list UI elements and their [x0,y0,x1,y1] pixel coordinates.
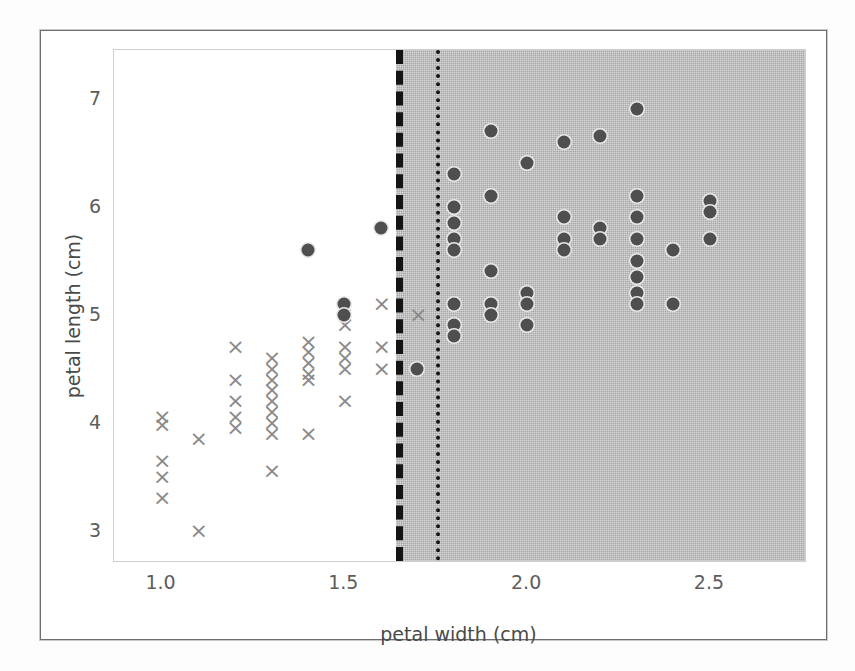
data-point-circle [630,297,643,310]
data-point-circle [484,125,497,138]
page-canvas: 1.01.52.02.5 34567 petal width (cm) peta… [0,0,855,671]
scatter-plot-figure: 1.01.52.02.5 34567 petal width (cm) peta… [41,31,826,639]
data-point-circle [521,297,534,310]
data-point-circle [338,308,351,321]
y-tick-label: 7 [69,87,101,109]
data-point-cross [190,430,207,447]
data-point-circle [374,222,387,235]
document-page-frame: 1.01.52.02.5 34567 petal width (cm) peta… [40,30,827,640]
data-point-cross [409,306,426,323]
data-point-circle [484,308,497,321]
data-point-cross [153,490,170,507]
data-point-cross [372,295,389,312]
data-point-circle [301,243,314,256]
data-point-circle [667,297,680,310]
data-point-circle [448,168,461,181]
data-point-circle [557,135,570,148]
data-point-circle [630,254,643,267]
data-point-circle [630,233,643,246]
data-point-cross [226,339,243,356]
data-point-cross [336,393,353,410]
data-point-circle [448,243,461,256]
data-point-cross [372,339,389,356]
data-point-cross [336,360,353,377]
data-point-circle [448,330,461,343]
data-point-circle [521,157,534,170]
y-tick-label: 3 [69,519,101,541]
data-point-circle [557,211,570,224]
data-point-circle [703,233,716,246]
data-point-circle [484,189,497,202]
data-point-circle [448,216,461,229]
data-point-cross [372,360,389,377]
plot-axes-area [113,49,806,562]
x-tick-label: 1.5 [328,571,358,593]
x-tick-label: 2.0 [511,571,541,593]
decision-boundary-dashed-line [396,50,403,561]
data-point-circle [630,211,643,224]
data-point-circle [703,206,716,219]
data-point-cross [299,371,316,388]
data-point-circle [630,270,643,283]
data-point-cross [226,371,243,388]
data-point-cross [190,522,207,539]
data-point-cross [263,463,280,480]
data-point-circle [630,103,643,116]
data-point-cross [153,416,170,433]
data-point-cross [153,468,170,485]
x-tick-label: 2.5 [694,571,724,593]
x-axis-label: petal width (cm) [113,623,804,645]
data-point-circle [594,233,607,246]
x-tick-label: 1.0 [145,571,175,593]
data-point-cross [299,425,316,442]
data-point-circle [667,243,680,256]
data-point-circle [448,297,461,310]
y-axis-label: petal length (cm) [62,166,84,466]
data-point-cross [263,425,280,442]
data-point-circle [411,362,424,375]
data-point-circle [557,243,570,256]
data-point-circle [594,130,607,143]
data-point-circle [448,200,461,213]
data-point-circle [521,319,534,332]
data-point-circle [484,265,497,278]
data-point-circle [630,189,643,202]
data-point-cross [226,420,243,437]
decision-boundary-dotted-line [436,50,440,561]
